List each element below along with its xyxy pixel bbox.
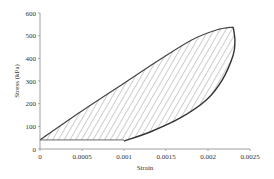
x-tick-label: 0.001 — [116, 153, 132, 161]
x-tick-label: 0.0005 — [72, 153, 92, 161]
y-tick-label: 100 — [26, 123, 37, 131]
x-tick-label: 0.0025 — [240, 153, 260, 161]
x-axis-label: Strain — [137, 164, 154, 172]
y-tick-label: 200 — [26, 100, 37, 108]
hysteresis-area — [40, 27, 235, 141]
y-tick-label: 500 — [26, 32, 37, 40]
x-tick-label: 0.002 — [200, 153, 216, 161]
plot-area — [40, 27, 235, 141]
x-tick-label: 0 — [38, 153, 42, 161]
y-tick-label: 600 — [26, 10, 37, 18]
y-tick-label: 300 — [26, 78, 37, 86]
stress-strain-chart: 010020030040050060000.00050.0010.00150.0… — [0, 0, 274, 179]
y-tick-label: 400 — [26, 55, 37, 63]
y-tick-label: 0 — [33, 146, 37, 154]
x-tick-label: 0.0015 — [156, 153, 176, 161]
y-axis-label: Stress (kPa) — [13, 64, 21, 98]
